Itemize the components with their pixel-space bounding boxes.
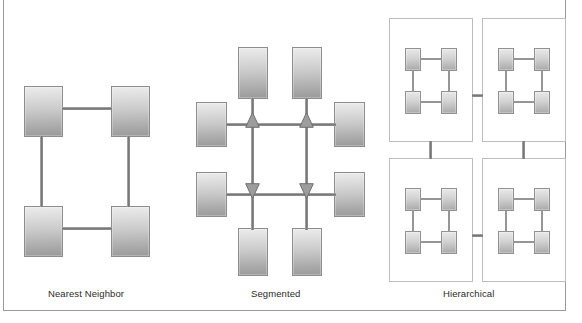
node-nn-top-left bbox=[24, 86, 63, 137]
arrow-sg-down-left bbox=[245, 183, 260, 198]
link-hc-tr-bottom bbox=[513, 101, 535, 103]
link-nn-top bbox=[62, 107, 112, 110]
cluster-top-left bbox=[389, 18, 473, 142]
diagram-canvas: Nearest Neighbor Seg bbox=[0, 0, 582, 323]
link-nn-bottom bbox=[62, 227, 112, 230]
cluster-bottom-right bbox=[482, 158, 566, 282]
node-hc-tr-1 bbox=[498, 48, 514, 71]
link-cluster-bottom bbox=[472, 234, 483, 237]
caption-segmented: Segmented bbox=[251, 288, 301, 299]
link-cluster-right bbox=[522, 141, 525, 159]
node-hc-tr-4 bbox=[534, 91, 550, 114]
node-hc-bl-4 bbox=[441, 231, 457, 254]
node-hc-tr-2 bbox=[534, 48, 550, 71]
link-hc-bl-right bbox=[448, 210, 450, 232]
link-hc-tl-bottom bbox=[420, 101, 442, 103]
node-hc-bl-1 bbox=[405, 188, 421, 211]
link-sg-horizontal-upper bbox=[226, 123, 336, 126]
node-sg-right-1 bbox=[334, 102, 365, 147]
node-hc-br-1 bbox=[498, 188, 514, 211]
node-hc-tl-2 bbox=[441, 48, 457, 71]
node-hc-br-2 bbox=[534, 188, 550, 211]
link-nn-right bbox=[127, 136, 130, 207]
link-hc-tl-right bbox=[448, 70, 450, 92]
link-nn-left bbox=[40, 136, 43, 207]
node-sg-right-2 bbox=[334, 172, 365, 217]
link-hc-tl-left bbox=[412, 70, 414, 92]
node-hc-br-3 bbox=[498, 231, 514, 254]
link-hc-br-top bbox=[513, 198, 535, 200]
node-hc-tr-3 bbox=[498, 91, 514, 114]
node-nn-bottom-left bbox=[24, 206, 63, 257]
caption-nearest-neighbor: Nearest Neighbor bbox=[48, 288, 124, 299]
node-sg-bottom-1 bbox=[238, 228, 268, 276]
node-hc-tl-4 bbox=[441, 91, 457, 114]
link-hc-bl-left bbox=[412, 210, 414, 232]
node-hc-bl-3 bbox=[405, 231, 421, 254]
arrow-sg-up-left bbox=[245, 112, 260, 127]
link-hc-bl-bottom bbox=[420, 241, 442, 243]
node-sg-left-2 bbox=[196, 172, 227, 217]
link-hc-br-right bbox=[541, 210, 543, 232]
link-cluster-left bbox=[429, 141, 432, 159]
cluster-bottom-left bbox=[389, 158, 473, 282]
link-hc-br-left bbox=[505, 210, 507, 232]
arrow-sg-down-right bbox=[299, 183, 314, 198]
node-sg-top-1 bbox=[238, 47, 268, 99]
arrow-sg-up-right bbox=[299, 112, 314, 127]
link-hc-br-bottom bbox=[513, 241, 535, 243]
link-hc-tr-left bbox=[505, 70, 507, 92]
node-hc-tl-1 bbox=[405, 48, 421, 71]
node-hc-bl-2 bbox=[441, 188, 457, 211]
node-hc-tl-3 bbox=[405, 91, 421, 114]
caption-hierarchical: Hierarchical bbox=[443, 288, 494, 299]
link-cluster-top bbox=[472, 94, 483, 97]
link-hc-tr-top bbox=[513, 58, 535, 60]
link-sg-horizontal-lower bbox=[226, 193, 336, 196]
node-nn-top-right bbox=[111, 86, 150, 137]
node-sg-bottom-2 bbox=[292, 228, 322, 276]
node-sg-left-1 bbox=[196, 102, 227, 147]
link-hc-tr-right bbox=[541, 70, 543, 92]
node-hc-br-4 bbox=[534, 231, 550, 254]
cluster-top-right bbox=[482, 18, 566, 142]
node-nn-bottom-right bbox=[111, 206, 150, 257]
link-hc-bl-top bbox=[420, 198, 442, 200]
link-hc-tl-top bbox=[420, 58, 442, 60]
node-sg-top-2 bbox=[292, 47, 322, 99]
